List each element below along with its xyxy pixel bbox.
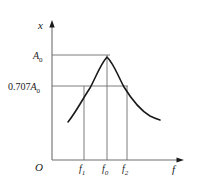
y-axis-arrowhead [49,20,54,28]
y-tick-half-power-subscript: 0 [37,87,41,95]
x-tick-f2-subscript: 2 [125,169,129,177]
y-tick-label-half-power: 0.707A0 [8,81,41,95]
x-tick-label-f0: f0 [102,163,109,177]
x-tick-f0-subscript: 0 [105,169,109,177]
origin-label: O [35,161,43,173]
y-tick-label-peak: A0 [32,50,43,64]
x-tick-label-f1: f1 [79,163,85,177]
y-tick-half-power-coefficient: 0.707 [8,81,31,92]
x-axis-arrowhead [177,157,185,162]
resonance-curve-chart: x f O A0 0.707A0 f1 f0 f2 [0,0,207,186]
y-tick-peak-subscript: 0 [39,56,43,64]
x-tick-f1-subscript: 1 [82,169,86,177]
x-axis-label: f [172,163,177,175]
resonance-curve-path [68,57,160,122]
y-axis-label: x [37,19,43,31]
x-tick-label-f2: f2 [122,163,129,177]
resonance-curve-figure: x f O A0 0.707A0 f1 f0 f2 [0,0,207,186]
